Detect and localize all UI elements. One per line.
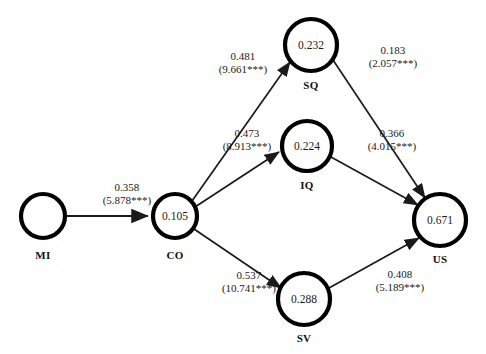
node-sv-value: 0.288 [291, 293, 317, 305]
node-us[interactable]: 0.671 US [414, 194, 466, 265]
node-sv-label: SV [297, 332, 312, 344]
node-mi[interactable]: MI [21, 194, 65, 261]
edge-co-to-sv [194, 229, 281, 288]
node-mi-label: MI [35, 249, 50, 261]
edge-co-to-sq [192, 62, 290, 201]
node-sq-value: 0.232 [298, 39, 324, 51]
node-us-value: 0.671 [427, 214, 453, 226]
edge-sq-to-us [333, 60, 425, 198]
node-iq-label: IQ [300, 179, 314, 191]
node-us-label: US [433, 253, 448, 265]
node-iq-value: 0.224 [294, 140, 320, 152]
path-diagram-svg: MI 0.105 CO 0.232 SQ 0.224 IQ 0.288 SV 0… [0, 0, 486, 354]
edge-group [66, 60, 425, 288]
path-diagram-canvas: MI 0.105 CO 0.232 SQ 0.224 IQ 0.288 SV 0… [0, 0, 486, 354]
node-sq-label: SQ [303, 79, 318, 91]
node-mi-circle[interactable] [21, 194, 65, 238]
node-co[interactable]: 0.105 CO [153, 194, 197, 261]
node-iq[interactable]: 0.224 IQ [282, 121, 332, 191]
node-sv[interactable]: 0.288 SV [278, 273, 330, 344]
edge-iq-to-us [331, 157, 418, 205]
node-co-value: 0.105 [162, 210, 188, 222]
node-co-label: CO [166, 249, 183, 261]
edge-sv-to-us [329, 238, 419, 288]
node-sq[interactable]: 0.232 SQ [285, 19, 337, 91]
